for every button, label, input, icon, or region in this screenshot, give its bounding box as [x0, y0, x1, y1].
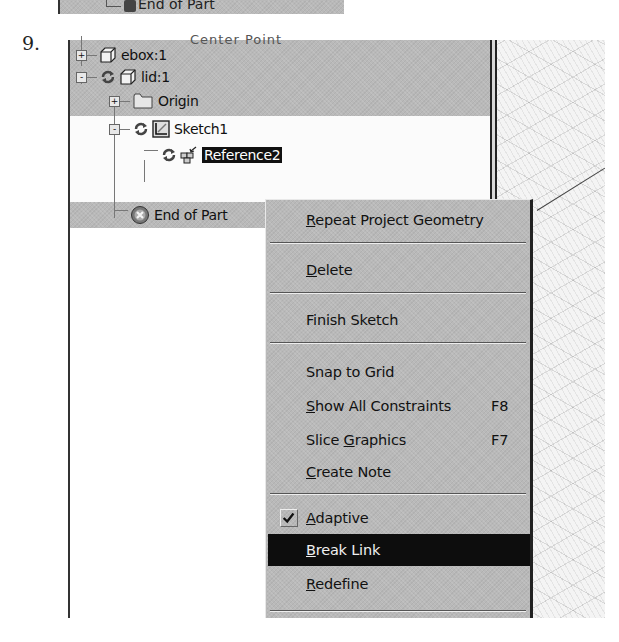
menu-item-label: Adaptive: [306, 510, 369, 526]
part-cube-icon: [99, 46, 117, 64]
menu-item-repeat-project-geometry[interactable]: Repeat Project Geometry: [268, 204, 530, 236]
menu-item-adaptive[interactable]: Adaptive: [268, 502, 530, 534]
menu-item-delete[interactable]: Delete: [268, 254, 530, 286]
collapse-minus-icon[interactable]: -: [76, 72, 87, 83]
tree-connector: [120, 101, 130, 102]
tree-connector: [144, 150, 158, 151]
step-number: 9.: [22, 32, 40, 54]
menu-item-label: Repeat Project Geometry: [306, 212, 484, 228]
menu-item-label: Finish Sketch: [306, 312, 398, 328]
tree-item-label: ebox:1: [121, 47, 167, 63]
menu-item-label: Break Link: [306, 542, 380, 558]
menu-item-shortcut: F7: [491, 432, 508, 448]
menu-separator: [270, 493, 526, 495]
menu-item-label: Snap to Grid: [306, 364, 394, 380]
menu-item-slice-graphics[interactable]: Slice Graphics F7: [268, 424, 530, 456]
part-cube-icon: [119, 68, 137, 86]
tree-item-lid[interactable]: - lid:1: [76, 66, 170, 88]
tree-item-label: End of Part: [154, 207, 227, 223]
previous-step-fragment: End of Part: [58, 0, 344, 14]
menu-item-snap-to-grid[interactable]: Snap to Grid: [268, 356, 530, 388]
sketch-icon: [152, 120, 170, 138]
expand-plus-icon[interactable]: +: [76, 50, 87, 61]
menu-item-shortcut: F8: [491, 398, 508, 414]
menu-item-finish-sketch[interactable]: Finish Sketch: [268, 304, 530, 336]
tree-connector: [87, 77, 97, 78]
tree-item-label: lid:1: [141, 69, 170, 85]
collapse-minus-icon[interactable]: -: [109, 124, 120, 135]
adaptive-icon: [132, 120, 150, 138]
menu-item-label: Delete: [306, 262, 352, 278]
menu-separator: [270, 242, 526, 244]
tree-item-sketch1[interactable]: - Sketch1: [109, 118, 228, 140]
tree-item-origin[interactable]: + Origin: [109, 90, 199, 112]
tree-connector: [114, 210, 128, 211]
menu-separator: [270, 610, 526, 612]
adaptive-icon: [160, 146, 178, 164]
menu-item-redefine[interactable]: Redefine: [268, 568, 530, 600]
previous-end-of-part-label: End of Part: [138, 0, 215, 12]
projected-geometry-icon: [180, 146, 198, 164]
menu-item-label: Redefine: [306, 576, 368, 592]
end-of-part-icon: [130, 205, 150, 225]
adaptive-icon: [99, 68, 117, 86]
menu-item-label: Create Note: [306, 464, 391, 480]
menu-item-label: Slice Graphics: [306, 432, 406, 448]
tree-item-label: Origin: [158, 93, 199, 109]
tree-connector: [87, 55, 97, 56]
expand-plus-icon[interactable]: +: [109, 96, 120, 107]
tree-item-ebox[interactable]: + ebox:1: [76, 44, 167, 66]
end-of-part-icon: [124, 0, 136, 12]
tree-connector: [120, 129, 130, 130]
folder-icon: [132, 92, 154, 110]
tree-item-reference2[interactable]: Reference2: [144, 144, 282, 166]
tree-item-label-selected: Reference2: [202, 147, 282, 163]
tree-item-end-of-part[interactable]: End of Part: [114, 204, 227, 226]
menu-item-create-note[interactable]: Create Note: [268, 456, 530, 488]
tree-line: [114, 98, 115, 218]
menu-item-break-link[interactable]: Break Link: [268, 534, 530, 566]
tree-connector: [106, 0, 121, 7]
partial-header: Center Point: [190, 32, 282, 47]
menu-item-show-all-constraints[interactable]: Show All Constraints F8: [268, 390, 530, 422]
checkmark-icon: [280, 509, 298, 527]
menu-separator: [270, 292, 526, 294]
menu-separator: [270, 342, 526, 344]
context-menu: Repeat Project Geometry Delete Finish Sk…: [265, 199, 533, 618]
menu-item-label: Show All Constraints: [306, 398, 451, 414]
tree-item-label: Sketch1: [174, 121, 228, 137]
model-edge: [537, 168, 605, 211]
